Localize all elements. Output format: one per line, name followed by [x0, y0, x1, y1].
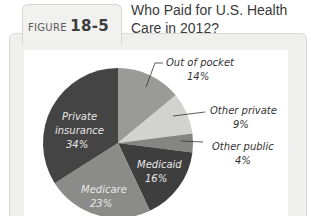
svg-text:14%: 14%	[187, 71, 209, 82]
label-medicaid: Medicaid	[137, 159, 182, 170]
label-out-of-pocket: Out of pocket	[166, 57, 235, 68]
label-medicare: Medicare	[81, 184, 127, 195]
svg-text:insurance: insurance	[55, 125, 104, 136]
svg-text:16%: 16%	[145, 173, 167, 184]
svg-text:4%: 4%	[235, 155, 251, 166]
svg-text:9%: 9%	[233, 119, 249, 130]
svg-text:34%: 34%	[66, 139, 88, 150]
svg-text:23%: 23%	[90, 198, 112, 209]
label-other-private: Other private	[210, 105, 277, 116]
label-private-insurance: Private	[62, 111, 97, 122]
label-other-public: Other public	[212, 141, 274, 152]
pie-chart: Out of pocket 14% Other private 9% Other…	[0, 0, 323, 216]
